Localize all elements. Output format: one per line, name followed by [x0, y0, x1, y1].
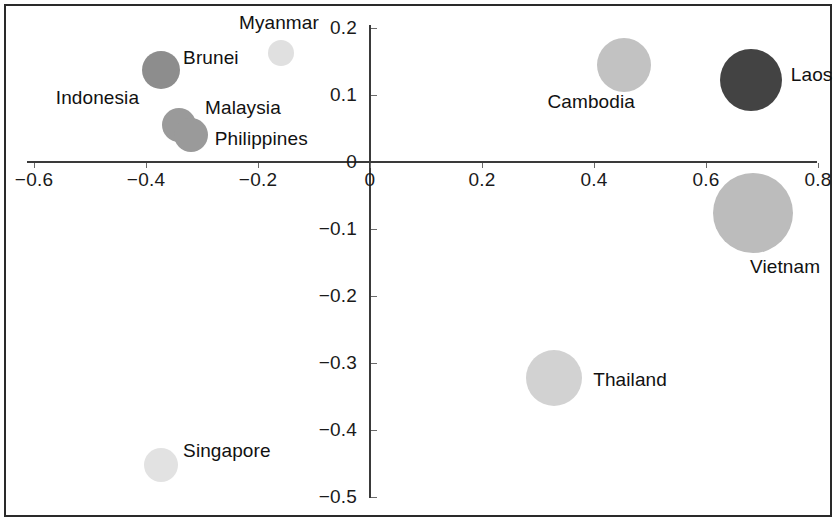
y-tick-label: 0.1: [330, 84, 357, 106]
point-label-laos: Laos: [791, 64, 833, 86]
x-tick-mark: [818, 163, 819, 168]
x-tick-mark: [370, 163, 371, 168]
point-label-thailand: Thailand: [593, 369, 667, 391]
y-tick-mark: [371, 363, 377, 364]
y-tick-label: 0.2: [330, 17, 357, 39]
x-tick-label: 0.2: [468, 169, 495, 191]
bubble-philippines[interactable]: [174, 118, 208, 152]
point-label-philippines: Philippines: [215, 128, 308, 150]
x-tick-label: 0.8: [804, 169, 831, 191]
y-tick-label: −0.1: [319, 218, 357, 240]
chart-screenshot: −0.6−0.4−0.200.20.40.60.8 0.20.10−0.1−0.…: [0, 0, 837, 522]
y-tick-label: −0.3: [319, 352, 357, 374]
point-label-vietnam: Vietnam: [750, 256, 820, 278]
x-tick-mark: [34, 163, 35, 168]
bubble-myanmar[interactable]: [268, 40, 294, 66]
x-tick-mark: [258, 163, 259, 168]
y-tick-mark: [371, 28, 377, 29]
scatter-plot-area: −0.6−0.4−0.200.20.40.60.8 0.20.10−0.1−0.…: [0, 0, 837, 522]
y-tick-label: −0.2: [319, 285, 357, 307]
x-tick-mark: [594, 163, 595, 168]
point-label-singapore: Singapore: [183, 440, 271, 462]
point-label-brunei: Brunei: [183, 47, 239, 69]
y-tick-label: −0.5: [319, 486, 357, 508]
x-tick-label: −0.2: [239, 169, 277, 191]
point-label-indonesia: Indonesia: [56, 87, 139, 109]
bubble-cambodia[interactable]: [597, 38, 651, 92]
point-label-malaysia: Malaysia: [205, 97, 281, 119]
y-tick-label: 0: [346, 151, 357, 173]
y-tick-label: −0.4: [319, 419, 357, 441]
bubble-thailand[interactable]: [526, 350, 582, 406]
bubble-singapore[interactable]: [144, 448, 178, 482]
point-label-myanmar: Myanmar: [239, 12, 319, 34]
x-tick-mark: [482, 163, 483, 168]
point-label-cambodia: Cambodia: [548, 91, 635, 113]
x-tick-label: −0.4: [127, 169, 165, 191]
x-tick-label: 0.6: [692, 169, 719, 191]
x-tick-mark: [706, 163, 707, 168]
x-tick-label: 0: [365, 169, 376, 191]
bubble-indonesia[interactable]: [142, 51, 180, 89]
y-tick-mark: [371, 296, 377, 297]
x-tick-label: −0.6: [15, 169, 53, 191]
x-tick-mark: [146, 163, 147, 168]
y-tick-mark: [371, 229, 377, 230]
y-tick-mark: [371, 430, 377, 431]
y-tick-mark: [371, 95, 377, 96]
x-tick-label: 0.4: [580, 169, 607, 191]
bubble-laos[interactable]: [720, 49, 782, 111]
y-tick-mark: [371, 497, 377, 498]
bubble-vietnam[interactable]: [713, 173, 793, 253]
